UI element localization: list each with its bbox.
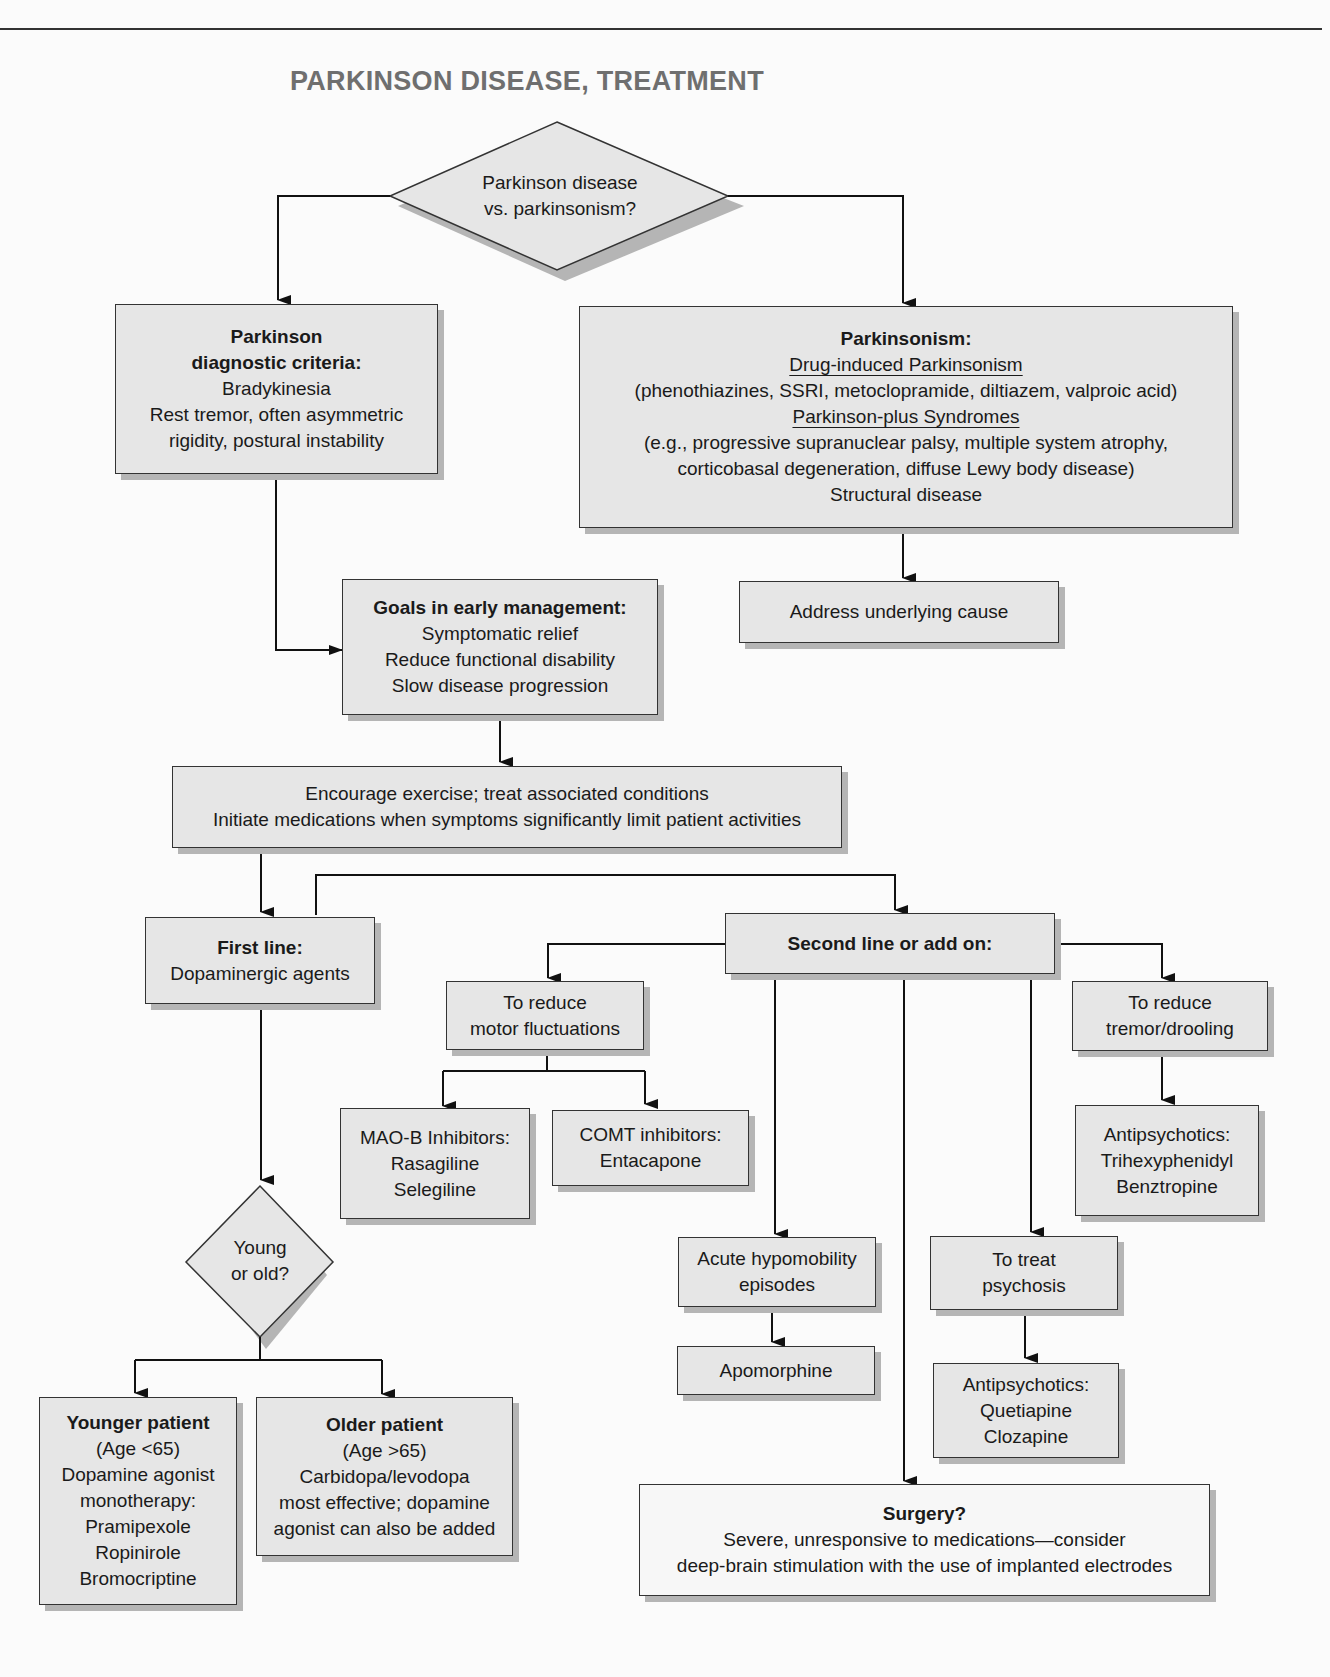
node-line: To treat [992,1247,1055,1273]
node-line: Apomorphine [719,1358,832,1384]
subheading-drug-induced: Drug-induced Parkinsonism [789,352,1022,378]
node-line: Dopamine agonist [61,1462,214,1488]
node-line: Rasagiline [391,1151,480,1177]
node-diagnostic-criteria: Parkinson diagnostic criteria: Bradykine… [115,304,438,474]
node-line: deep-brain stimulation with the use of i… [677,1553,1172,1579]
node-line: Reduce functional disability [385,647,615,673]
node-second-line: Second line or add on: [725,913,1055,974]
node-heading: Younger patient [66,1410,209,1436]
node-line: Pramipexole [85,1514,191,1540]
node-reduce-motor-fluctuations: To reduce motor fluctuations [446,981,644,1050]
node-line: agonist can also be added [274,1516,496,1542]
node-line: corticobasal degeneration, diffuse Lewy … [678,456,1135,482]
decision-line: Parkinson disease [420,170,700,196]
node-line: Clozapine [984,1424,1069,1450]
node-heading: Older patient [326,1412,443,1438]
node-antipsychotics-tremor: Antipsychotics: Trihexyphenidyl Benztrop… [1075,1105,1259,1216]
node-goals-early-management: Goals in early management: Symptomatic r… [342,579,658,715]
node-line: Dopaminergic agents [170,961,350,987]
subheading-parkinson-plus: Parkinson-plus Syndromes [792,404,1019,430]
node-older-patient: Older patient (Age >65) Carbidopa/levodo… [256,1397,513,1556]
node-line: Address underlying cause [790,599,1009,625]
node-line: COMT inhibitors: [579,1122,721,1148]
node-line: Symptomatic relief [422,621,578,647]
node-line: Trihexyphenidyl [1101,1148,1233,1174]
node-line: Quetiapine [980,1398,1072,1424]
node-line: (Age <65) [96,1436,180,1462]
decision-line: or old? [200,1261,320,1287]
node-line: Severe, unresponsive to medications—cons… [723,1527,1125,1553]
node-line: tremor/drooling [1106,1016,1234,1042]
node-apomorphine: Apomorphine [677,1346,875,1395]
node-heading: diagnostic criteria: [192,350,362,376]
node-heading: Parkinsonism: [841,326,972,352]
node-younger-patient: Younger patient (Age <65) Dopamine agoni… [39,1397,237,1605]
node-line: (e.g., progressive supranuclear palsy, m… [644,430,1168,456]
node-parkinsonism: Parkinsonism: Drug-induced Parkinsonism … [579,306,1233,528]
node-line: (Age >65) [343,1438,427,1464]
node-line: Encourage exercise; treat associated con… [305,781,708,807]
node-antipsychotics-psychosis: Antipsychotics: Quetiapine Clozapine [933,1363,1119,1458]
node-heading: Goals in early management: [373,595,626,621]
node-line: Initiate medications when symptoms signi… [213,807,801,833]
decision-parkinson-vs-parkinsonism: Parkinson disease vs. parkinsonism? [420,170,700,222]
node-line: monotherapy: [80,1488,196,1514]
node-line: Slow disease progression [392,673,609,699]
node-address-underlying-cause: Address underlying cause [739,581,1059,643]
node-line: Carbidopa/levodopa [299,1464,469,1490]
node-encourage-exercise: Encourage exercise; treat associated con… [172,766,842,848]
node-line: To reduce [503,990,586,1016]
node-surgery: Surgery? Severe, unresponsive to medicat… [639,1484,1210,1596]
node-line: motor fluctuations [470,1016,620,1042]
node-heading: Surgery? [883,1501,966,1527]
node-line: Structural disease [830,482,982,508]
node-line: episodes [739,1272,815,1298]
node-line: MAO-B Inhibitors: [360,1125,510,1151]
node-line: Bromocriptine [79,1566,196,1592]
node-line: Ropinirole [95,1540,181,1566]
node-acute-hypomobility: Acute hypomobility episodes [678,1237,876,1307]
node-line: Antipsychotics: [963,1372,1090,1398]
decision-line: vs. parkinsonism? [420,196,700,222]
decision-young-or-old: Young or old? [200,1235,320,1287]
node-line: To reduce [1128,990,1211,1016]
node-heading: Parkinson [231,324,323,350]
node-line: Rest tremor, often asymmetric [150,402,403,428]
node-line: psychosis [982,1273,1065,1299]
node-line: Antipsychotics: [1104,1122,1231,1148]
node-line: Bradykinesia [222,376,331,402]
decision-line: Young [200,1235,320,1261]
node-line: Benztropine [1116,1174,1217,1200]
node-maob-inhibitors: MAO-B Inhibitors: Rasagiline Selegiline [340,1108,530,1219]
node-treat-psychosis: To treat psychosis [930,1236,1118,1310]
node-first-line: First line: Dopaminergic agents [145,917,375,1004]
node-line: rigidity, postural instability [169,428,384,454]
node-heading: First line: [217,935,303,961]
node-reduce-tremor-drooling: To reduce tremor/drooling [1072,981,1268,1051]
node-line: most effective; dopamine [279,1490,490,1516]
node-comt-inhibitors: COMT inhibitors: Entacapone [552,1110,749,1186]
node-line: Acute hypomobility [697,1246,856,1272]
node-line: (phenothiazines, SSRI, metoclopramide, d… [635,378,1178,404]
node-line: Selegiline [394,1177,476,1203]
node-line: Entacapone [600,1148,701,1174]
node-heading: Second line or add on: [788,931,993,957]
